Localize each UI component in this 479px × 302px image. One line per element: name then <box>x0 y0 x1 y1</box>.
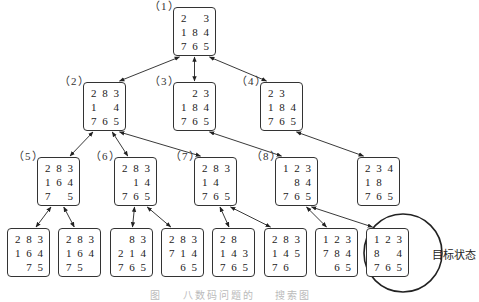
puzzle-grid: 12384765 <box>371 232 405 274</box>
puzzle-tile: 3 <box>222 161 233 175</box>
puzzle-tile: 5 <box>385 189 396 203</box>
puzzle-tile: 8 <box>189 25 200 39</box>
puzzle-tile: 1 <box>199 175 210 189</box>
puzzle-tile: 7 <box>217 260 228 274</box>
puzzle-tile: 2 <box>178 11 189 25</box>
puzzle-tile: 4 <box>86 246 97 260</box>
puzzle-tile: 3 <box>276 86 287 100</box>
puzzle-grid: 23418765 <box>362 161 396 203</box>
puzzle-tile: 1 <box>320 232 331 246</box>
puzzle-tile: 7 <box>280 189 291 203</box>
puzzle-tile: 5 <box>222 189 233 203</box>
puzzle-tile: 6 <box>99 114 110 128</box>
puzzle-tile: 4 <box>142 175 153 189</box>
puzzle-tile: 4 <box>343 246 354 260</box>
puzzle-tile: 2 <box>331 232 342 246</box>
puzzle-tile: 6 <box>228 260 239 274</box>
puzzle-tile: 7 <box>178 114 189 128</box>
puzzle-tile: 3 <box>240 246 251 260</box>
puzzle-tile: 7 <box>371 260 382 274</box>
puzzle-tile: 6 <box>276 114 287 128</box>
puzzle-tile: 3 <box>138 232 149 246</box>
puzzle-tile: 4 <box>201 100 212 114</box>
puzzle-tile: 6 <box>126 260 137 274</box>
puzzle-tile: 7 <box>320 246 331 260</box>
puzzle-tile: 1 <box>371 232 382 246</box>
puzzle-tile: 4 <box>210 175 221 189</box>
puzzle-tile <box>178 86 189 100</box>
state-node-n4: 23184765 <box>260 82 303 131</box>
node-index-label: （6） <box>90 147 121 163</box>
puzzle-tile: 1 <box>265 100 276 114</box>
puzzle-tile: 4 <box>303 175 314 189</box>
puzzle-tile <box>86 260 97 274</box>
puzzle-tile: 5 <box>35 260 46 274</box>
puzzle-tile: 1 <box>280 161 291 175</box>
puzzle-tile: 4 <box>201 25 212 39</box>
puzzle-grid: 28143765 <box>217 232 251 274</box>
puzzle-tile: 3 <box>189 232 200 246</box>
puzzle-tile: 7 <box>119 189 130 203</box>
puzzle-tile: 5 <box>240 260 251 274</box>
puzzle-grid: 23184765 <box>178 11 212 53</box>
node-index-label: （1） <box>149 0 180 13</box>
state-node-b4: 28371465 <box>161 228 204 277</box>
puzzle-tile: 8 <box>99 86 110 100</box>
puzzle-grid: 28314765 <box>88 86 122 128</box>
puzzle-tile: 2 <box>115 246 126 260</box>
state-node-n2: 28314765 <box>83 82 126 131</box>
puzzle-tile: 7 <box>88 114 99 128</box>
puzzle-grid: 28371465 <box>166 232 200 274</box>
edge-arrow <box>220 207 229 227</box>
puzzle-tile: 6 <box>373 189 384 203</box>
puzzle-tile: 2 <box>362 161 373 175</box>
puzzle-tile: 7 <box>23 260 34 274</box>
puzzle-tile: 5 <box>201 39 212 53</box>
puzzle-tile: 3 <box>201 11 212 25</box>
puzzle-grid: 23184765 <box>178 86 212 128</box>
puzzle-tile: 8 <box>177 232 188 246</box>
puzzle-tile <box>320 260 331 274</box>
node-index-label: （2） <box>59 72 90 88</box>
puzzle-tile: 6 <box>130 189 141 203</box>
state-node-n5: 28316475 <box>37 157 80 206</box>
puzzle-grid: 28316475 <box>42 161 76 203</box>
puzzle-tile: 8 <box>130 161 141 175</box>
puzzle-tile: 5 <box>288 114 299 128</box>
state-node-b2: 28316475 <box>58 228 101 277</box>
puzzle-tile: 2 <box>291 161 302 175</box>
puzzle-tile: 3 <box>303 161 314 175</box>
puzzle-tile: 7 <box>115 260 126 274</box>
puzzle-grid: 28316475 <box>63 232 97 274</box>
puzzle-tile: 4 <box>280 246 291 260</box>
puzzle-tile: 5 <box>74 260 85 274</box>
edge-arrow <box>307 207 327 227</box>
puzzle-tile <box>12 260 23 274</box>
edge-arrow <box>147 207 171 227</box>
edge-arrow <box>231 207 271 227</box>
puzzle-tile: 3 <box>111 86 122 100</box>
node-index-label: （3） <box>149 72 180 88</box>
puzzle-tile <box>385 175 396 189</box>
state-node-n1: 23184765 <box>173 7 216 56</box>
puzzle-tile: 4 <box>228 246 239 260</box>
puzzle-tile: 7 <box>362 189 373 203</box>
puzzle-tile: 4 <box>111 100 122 114</box>
puzzle-grid: 28314765 <box>119 161 153 203</box>
puzzle-tile: 2 <box>63 232 74 246</box>
puzzle-tile: 3 <box>292 232 303 246</box>
puzzle-tile: 6 <box>280 260 291 274</box>
puzzle-tile: 8 <box>291 175 302 189</box>
puzzle-tile <box>189 11 200 25</box>
goal-state-label: 目标状态 <box>432 246 476 262</box>
puzzle-tile: 3 <box>65 161 76 175</box>
state-node-n7: 28314765 <box>194 157 237 206</box>
puzzle-tile: 6 <box>210 189 221 203</box>
puzzle-tile: 4 <box>65 175 76 189</box>
puzzle-tile: 6 <box>331 260 342 274</box>
state-node-b1: 28316475 <box>7 228 50 277</box>
node-index-label: （4） <box>236 72 267 88</box>
puzzle-tile <box>166 260 177 274</box>
puzzle-tile: 8 <box>189 100 200 114</box>
puzzle-tile: 2 <box>199 161 210 175</box>
